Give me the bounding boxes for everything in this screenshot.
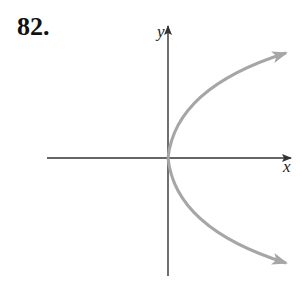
graph [0,0,302,285]
curve-lower-branch [168,158,286,263]
curve-upper-branch [168,53,286,158]
